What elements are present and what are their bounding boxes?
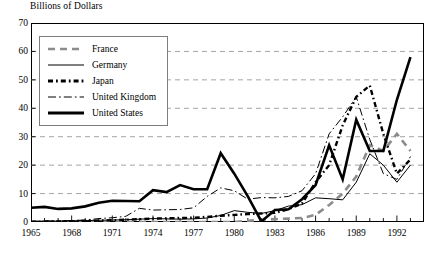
legend-item-label: Japan — [92, 75, 114, 87]
legend-item[interactable]: Japan — [40, 73, 167, 89]
x-tick-label: 1971 — [103, 228, 122, 239]
chart-legend: FranceGermanyJapanUnited KingdomUnited S… — [39, 36, 168, 126]
thin-solid-swatch — [47, 59, 85, 71]
x-tick-label: 1992 — [387, 228, 406, 239]
x-tick-label: 1968 — [62, 228, 81, 239]
y-axis-tick-labels: 010203040506070 — [0, 0, 28, 254]
y-tick-label: 40 — [2, 103, 28, 113]
y-tick-label: 70 — [2, 18, 28, 28]
x-tick-label: 1986 — [306, 228, 325, 239]
gray-dashed-swatch — [47, 43, 85, 55]
y-tick-label: 20 — [2, 160, 28, 170]
legend-item-label: United States — [92, 107, 143, 119]
x-tick-label: 1989 — [347, 228, 366, 239]
legend-item-label: France — [92, 43, 118, 55]
chart-axis-title: Billions of Dollars — [30, 0, 103, 12]
x-tick-label: 1965 — [22, 228, 41, 239]
y-tick-label: 30 — [2, 132, 28, 142]
bold-dashdot-swatch — [47, 75, 85, 87]
y-tick-label: 50 — [2, 75, 28, 85]
y-tick-label: 10 — [2, 189, 28, 199]
legend-item[interactable]: United Kingdom — [40, 89, 167, 105]
thin-dashdot-swatch — [47, 91, 85, 103]
x-tick-label: 1977 — [184, 228, 203, 239]
y-tick-label: 0 — [2, 217, 28, 227]
legend-item-label: United Kingdom — [92, 91, 156, 103]
x-tick-label: 1983 — [265, 228, 284, 239]
series-line-france — [31, 134, 410, 222]
y-tick-label: 60 — [2, 46, 28, 56]
bold-solid-swatch — [47, 107, 85, 119]
x-axis-tick-labels: 1965196819711974197719801983198619891992 — [0, 228, 434, 242]
legend-item-label: Germany — [92, 59, 127, 71]
line-chart: Billions of Dollars 010203040506070 1965… — [0, 0, 434, 254]
legend-item[interactable]: United States — [40, 105, 167, 121]
legend-item[interactable]: France — [40, 41, 167, 57]
legend-item[interactable]: Germany — [40, 57, 167, 73]
x-tick-label: 1980 — [225, 228, 244, 239]
x-tick-label: 1974 — [143, 228, 162, 239]
